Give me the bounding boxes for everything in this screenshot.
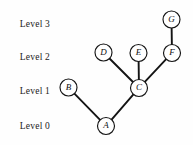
tree-edge — [74, 94, 100, 120]
tree-node-d[interactable]: D — [95, 44, 112, 61]
tree-node-g[interactable]: G — [163, 11, 180, 28]
node-label-g: G — [168, 14, 175, 24]
tree-node-e[interactable]: E — [130, 45, 147, 62]
tree-edge — [112, 94, 134, 119]
node-label-c: C — [136, 82, 143, 92]
tree-node-f[interactable]: F — [164, 45, 181, 62]
tree-edge — [145, 59, 166, 82]
node-label-f: F — [168, 47, 175, 57]
tree-node-a[interactable]: A — [98, 118, 115, 135]
level-label-0: Level 0 — [20, 121, 50, 131]
level-labels-group: Level 3Level 2Level 1Level 0 — [20, 19, 50, 131]
level-label-3: Level 3 — [20, 19, 50, 29]
node-label-b: B — [66, 82, 72, 92]
level-label-1: Level 1 — [20, 86, 50, 96]
node-label-d: D — [99, 47, 107, 57]
tree-node-c[interactable]: C — [131, 80, 148, 97]
nodes-group: ABCDEFG — [60, 11, 181, 135]
node-label-e: E — [135, 47, 142, 57]
edges-group — [74, 28, 171, 120]
tree-diagram: ABCDEFG Level 3Level 2Level 1Level 0 — [0, 0, 193, 145]
tree-edge — [110, 59, 133, 82]
tree-diagram-canvas: ABCDEFG Level 3Level 2Level 1Level 0 — [0, 0, 193, 145]
node-label-a: A — [102, 120, 109, 130]
level-label-2: Level 2 — [20, 52, 50, 62]
tree-node-b[interactable]: B — [60, 79, 77, 96]
